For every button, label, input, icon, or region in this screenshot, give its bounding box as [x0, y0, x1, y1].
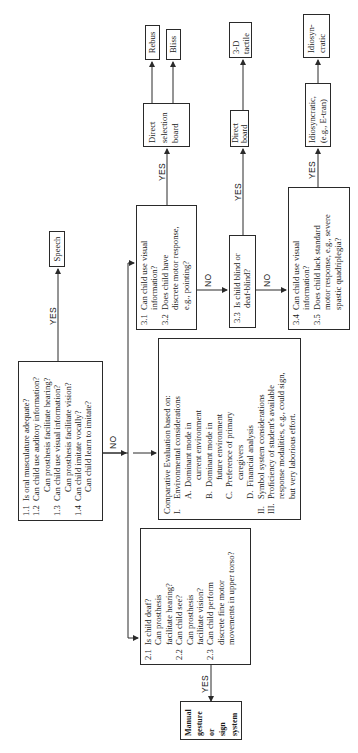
- box2-line: facilitate hearing?: [164, 533, 174, 660]
- box2-line: discrete fine motor: [216, 533, 226, 660]
- direct-selection-line: Direct: [147, 107, 159, 143]
- comparative-item: future environment: [214, 344, 224, 514]
- box34-line: spastic quadriplegia?: [333, 192, 343, 325]
- manual-line: gesture: [194, 705, 205, 736]
- box1-line: 1.1Is oral musculature adequate?: [21, 366, 31, 516]
- rebus-label: Rebus: [147, 32, 157, 53]
- speech-label: Speech: [52, 237, 62, 262]
- box34-line: 3.5Does child lack standard: [312, 192, 322, 325]
- box2-line: 2.2Can child see?: [174, 533, 184, 660]
- manual-line: sign: [217, 705, 228, 736]
- direct-selection-line: selection: [159, 107, 171, 143]
- edge-label-yes-speech: YES: [48, 307, 58, 325]
- edge-label-no-box1: NO: [108, 436, 118, 449]
- comparative-item: current environment: [193, 344, 203, 514]
- box2-line: facilitate vision?: [195, 533, 205, 660]
- comparative-item: but very laborious effort.: [287, 344, 297, 514]
- box1-line: 1.3Can child use visual information?: [52, 366, 62, 516]
- box1-line: Can child learn to imitate?: [83, 366, 93, 516]
- box-3d-tactile: 3-D tactile: [229, 22, 252, 58]
- box-idiosyncratic-etran: Idiosyncratic, (e.g., E-tran): [305, 83, 331, 147]
- edge-label-yes-33: YES: [233, 183, 243, 201]
- idio-eg-line: (e.g., E-tran): [318, 87, 329, 143]
- box33-line: 3.3Is child blind or: [232, 240, 242, 323]
- box-visual-motor-questions: 3.1Can child use visual information? 3.2…: [136, 205, 197, 330]
- edge-label-yes-manual: YES: [200, 675, 210, 693]
- box-visual-standard-motor-questions: 3.4Can child use visual information? 3.5…: [288, 187, 350, 330]
- comparative-item: I.Environmental considerations: [172, 344, 182, 514]
- idio-line: cratic: [317, 19, 328, 53]
- box34-line: 3.4Can child use visual: [291, 192, 301, 325]
- tactile-line: tactile: [241, 26, 251, 54]
- comparative-item: II.Symbol system considerations: [256, 344, 266, 514]
- box-blind-question: 3.3Is child blind or deaf-blind?: [229, 235, 256, 328]
- box-direct-board: Direct board: [230, 110, 249, 147]
- box-oral-musculature-questions: 1.1Is oral musculature adequate? 1.2Can …: [18, 361, 103, 521]
- box-rebus: Rebus: [145, 25, 160, 60]
- box2-line: movements in upper torso?: [226, 533, 236, 660]
- comparative-item: caregivers: [235, 344, 245, 514]
- box31-line: discrete motor response,: [170, 210, 180, 325]
- manual-line: system: [229, 705, 240, 736]
- idio-eg-line: Idiosyncratic,: [307, 87, 318, 143]
- box31-line: 3.2Does child have: [160, 210, 170, 325]
- direct-selection-line: board: [170, 107, 182, 143]
- comparative-item: III.Proficiency of student's available: [266, 344, 276, 514]
- idio-line: Idiosyn-: [306, 19, 317, 53]
- manual-line: or: [206, 705, 217, 736]
- box33-line: deaf-blind?: [242, 240, 252, 323]
- box-comparative-evaluation: Comparative Evaluation based on: I.Envir…: [158, 338, 301, 520]
- manual-line: Manual: [183, 705, 194, 736]
- edge-label-yes-34: YES: [307, 161, 317, 179]
- box-idiosyncratic: Idiosyn- cratic: [303, 14, 330, 58]
- box1-line: 1.2Can child use auditory information?: [31, 366, 41, 516]
- edge-label-no-31: NO: [203, 274, 213, 287]
- comparative-item: response modalities, e.g., could sign,: [276, 344, 286, 514]
- box1-line: 1.4Can child imitate vocally?: [73, 366, 83, 516]
- comparative-item: D.Financial analysis: [245, 344, 255, 514]
- box34-line: information?: [301, 192, 311, 325]
- box1-line: Can prosthesis facilitate vision?: [63, 366, 73, 516]
- tactile-line: 3-D: [231, 26, 241, 54]
- direct-board-line: board: [241, 114, 250, 143]
- box-direct-selection-board: Direct selection board: [143, 103, 190, 147]
- edge-label-yes-31: YES: [157, 163, 167, 181]
- comparative-title: Comparative Evaluation based on:: [162, 344, 172, 514]
- box34-line: motor response, e.g., severe: [322, 192, 332, 325]
- box-bliss: Bliss: [166, 29, 181, 60]
- box-manual-gesture-sign-system: Manual gesture or sign system: [180, 701, 242, 740]
- comparative-item: C.Preference of primary: [224, 344, 234, 514]
- comparative-item: A.Dominant mode in: [183, 344, 193, 514]
- box2-line: Can prosthesis: [153, 533, 163, 660]
- box2-line: Can prosthesis: [185, 533, 195, 660]
- box31-line: information?: [149, 210, 159, 325]
- box-deaf-vision-motor-questions: 2.1Is child deaf? Can prosthesis facilit…: [140, 528, 251, 665]
- bliss-label: Bliss: [168, 36, 178, 53]
- box2-line: 2.1Is child deaf?: [143, 533, 153, 660]
- box-speech: Speech: [49, 231, 65, 267]
- box2-line: 2.3Can child perform: [205, 533, 215, 660]
- box31-line: e.g., pointing?: [181, 210, 191, 325]
- comparative-item: B.Dominant mode in: [204, 344, 214, 514]
- edge-label-no-33: NO: [262, 274, 272, 287]
- box1-line: Can prosthesis facilitate hearing?: [42, 366, 52, 516]
- flowchart-diagram: YES NO YES NO NO YES YES YES 1.1Is oral …: [0, 0, 358, 753]
- box31-line: 3.1Can child use visual: [139, 210, 149, 325]
